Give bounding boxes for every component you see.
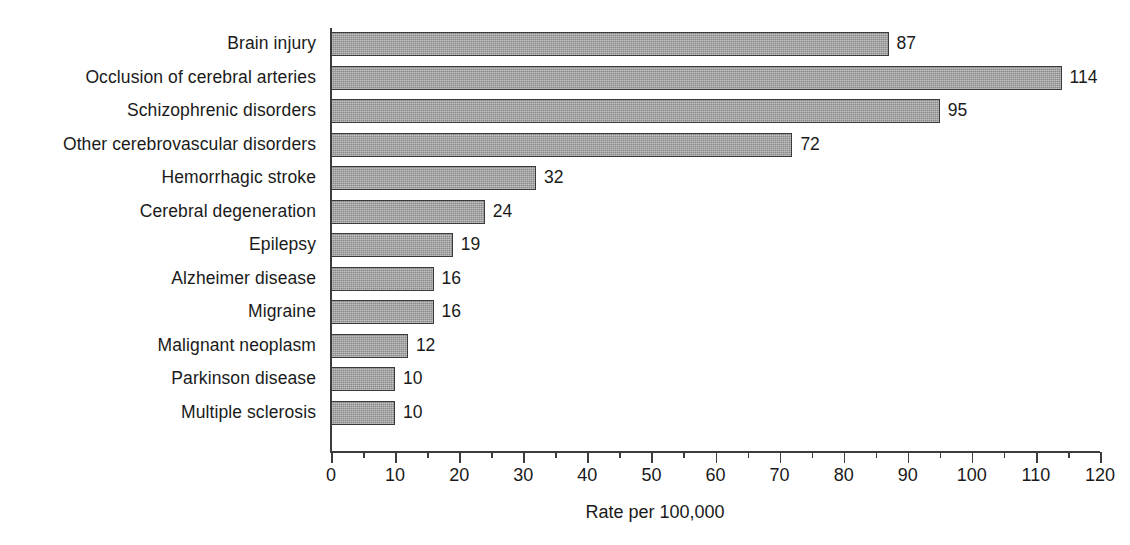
x-axis-tick-label: 110 [1022, 466, 1051, 484]
bar-row: Other cerebrovascular disorders72 [0, 133, 1130, 157]
x-axis-minor-tick [748, 452, 750, 458]
bar [331, 99, 940, 123]
bar-row: Multiple sclerosis10 [0, 401, 1130, 425]
x-axis-tick-label: 80 [834, 466, 854, 484]
x-axis-major-tick [908, 452, 910, 463]
x-axis-minor-tick [363, 452, 365, 458]
bar-value-label: 16 [442, 270, 461, 288]
bar-row: Hemorrhagic stroke32 [0, 166, 1130, 190]
x-axis-minor-tick [876, 452, 878, 458]
bar-row: Occlusion of cerebral arteries114 [0, 66, 1130, 90]
bar-row: Brain injury87 [0, 32, 1130, 56]
bar-value-label: 16 [442, 303, 461, 321]
bar-value-label: 10 [403, 404, 422, 422]
x-axis-major-tick [1100, 452, 1102, 463]
x-axis-tick-label: 120 [1085, 466, 1115, 484]
plot-area: Brain injury87Occlusion of cerebral arte… [0, 0, 1130, 545]
bar-value-label: 114 [1070, 69, 1098, 87]
bar [331, 200, 485, 224]
x-axis-title-text: Rate per 100,000 [585, 502, 724, 522]
x-axis-major-tick [651, 452, 653, 463]
x-axis-minor-tick [940, 452, 942, 458]
bar-value-label: 95 [948, 102, 967, 120]
category-label: Parkinson disease [171, 370, 316, 388]
bar [331, 66, 1062, 90]
bar-value-label: 10 [403, 370, 422, 388]
bar [331, 300, 434, 324]
category-label: Hemorrhagic stroke [162, 169, 317, 187]
x-axis-minor-tick [555, 452, 557, 458]
bar-rows: Brain injury87Occlusion of cerebral arte… [0, 0, 1130, 452]
bar-value-label: 12 [416, 337, 435, 355]
x-axis-major-tick [844, 452, 846, 463]
x-axis-minor-tick [812, 452, 814, 458]
x-axis-minor-tick [619, 452, 621, 458]
category-label: Migraine [248, 303, 316, 321]
x-axis-tick-label: 20 [449, 466, 469, 484]
bar [331, 401, 395, 425]
x-axis-major-tick [395, 452, 397, 463]
bar-row: Alzheimer disease16 [0, 267, 1130, 291]
x-axis-major-tick [1036, 452, 1038, 463]
bar-row: Schizophrenic disorders95 [0, 99, 1130, 123]
bar-row: Parkinson disease10 [0, 367, 1130, 391]
x-axis-tick-label: 90 [898, 466, 918, 484]
x-axis-tick-label: 30 [513, 466, 533, 484]
x-axis-tick-label: 50 [641, 466, 661, 484]
x-axis-minor-tick [683, 452, 685, 458]
bar-row: Cerebral degeneration24 [0, 200, 1130, 224]
bar-value-label: 87 [897, 35, 916, 53]
x-axis-major-tick [331, 452, 333, 463]
bar-row: Epilepsy19 [0, 233, 1130, 257]
bar-value-label: 72 [800, 136, 819, 154]
bar [331, 334, 408, 358]
category-label: Malignant neoplasm [158, 337, 316, 355]
bar-row: Malignant neoplasm12 [0, 334, 1130, 358]
x-axis-major-tick [523, 452, 525, 463]
category-label: Alzheimer disease [171, 270, 316, 288]
x-axis-minor-tick [491, 452, 493, 458]
bar-value-label: 24 [493, 203, 512, 221]
category-label: Multiple sclerosis [181, 404, 316, 422]
bar [331, 133, 792, 157]
bar [331, 32, 889, 56]
x-axis-minor-tick [1004, 452, 1006, 458]
category-label: Schizophrenic disorders [127, 102, 316, 120]
x-axis-title: Rate per 100,000 [0, 503, 1130, 521]
bar [331, 233, 453, 257]
x-axis-tick-label: 0 [326, 466, 336, 484]
category-label: Other cerebrovascular disorders [63, 136, 316, 154]
x-axis-tick-label: 100 [957, 466, 987, 484]
x-axis-major-tick [972, 452, 974, 463]
bar-value-label: 19 [461, 236, 480, 254]
category-label: Cerebral degeneration [140, 203, 316, 221]
category-label: Occlusion of cerebral arteries [85, 69, 316, 87]
x-axis-minor-tick [427, 452, 429, 458]
bar [331, 166, 536, 190]
x-axis-tick-label: 10 [385, 466, 405, 484]
bar-row: Migraine16 [0, 300, 1130, 324]
x-axis-major-tick [716, 452, 718, 463]
x-axis-major-tick [587, 452, 589, 463]
category-label: Brain injury [227, 35, 316, 53]
bar [331, 267, 434, 291]
x-axis-major-tick [780, 452, 782, 463]
category-label: Epilepsy [249, 236, 316, 254]
bar-chart: Brain injury87Occlusion of cerebral arte… [0, 0, 1130, 545]
x-axis-tick-label: 60 [705, 466, 725, 484]
x-axis-tick-label: 40 [577, 466, 597, 484]
x-axis-tick-label: 70 [770, 466, 790, 484]
bar-value-label: 32 [544, 169, 563, 187]
bar [331, 367, 395, 391]
x-axis-major-tick [459, 452, 461, 463]
x-axis-minor-tick [1068, 452, 1070, 458]
